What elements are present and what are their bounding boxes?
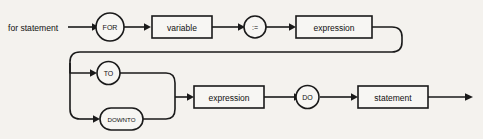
arrow-right-icon [187,93,194,101]
node-for[interactable]: FOR [96,13,124,41]
node-for-label: FOR [103,24,118,31]
arrow-right-icon [351,93,358,101]
arrow-right-icon [93,115,100,123]
node-expression-bottom-label: expression [208,93,249,103]
node-downto[interactable]: DOWNTO [100,108,143,130]
node-to[interactable]: TO [97,62,120,85]
node-expression-bottom[interactable]: expression [194,86,264,108]
node-statement-label: statement [374,93,412,103]
arrow-right-icon [144,23,151,31]
wire-trunk-to-to [70,63,90,73]
wire-to-to-merge [120,73,175,97]
node-variable-label: variable [167,23,197,33]
entry-label: for statement [8,23,59,33]
node-assign-operator-label: := [252,24,258,31]
arrow-right-icon [90,69,97,77]
node-statement[interactable]: statement [358,86,428,108]
syntax-diagram-canvas: for statement FOR variable := expression… [0,0,483,139]
node-to-label: TO [104,70,114,77]
node-do[interactable]: DO [296,86,319,109]
node-do-label: DO [302,94,313,101]
node-expression-top[interactable]: expression [296,16,372,38]
node-downto-label: DOWNTO [107,116,135,123]
node-expression-top-label: expression [313,23,354,33]
wire-downto-to-merge [143,97,175,119]
arrow-right-icon [465,93,473,101]
node-variable[interactable]: variable [152,16,212,38]
node-assign-operator[interactable]: := [244,16,266,38]
railroad-diagram: for statement FOR variable := expression… [0,0,483,139]
arrow-right-icon [289,23,296,31]
